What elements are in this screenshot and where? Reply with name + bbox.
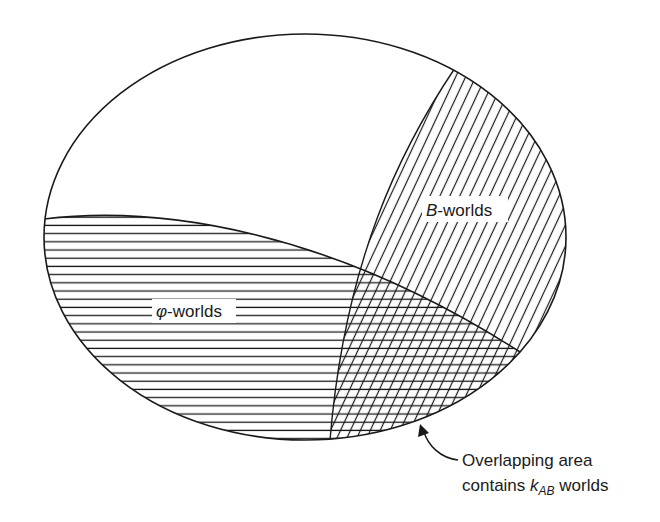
annotation-line-2: contains kAB worlds — [462, 476, 608, 498]
arrowhead-icon — [418, 424, 429, 437]
annotation-prefix: contains — [462, 476, 530, 495]
b-symbol: B — [426, 201, 437, 220]
phi-symbol: φ — [156, 302, 167, 321]
b-suffix: -worlds — [437, 201, 492, 220]
annotation-arrow — [424, 432, 458, 460]
annotation-suffix: worlds — [555, 476, 609, 495]
phi-suffix: -worlds — [167, 302, 222, 321]
b-worlds-label: B-worlds — [426, 201, 492, 220]
venn-diagram: B-worlds φ-worlds Overlapping area conta… — [0, 0, 660, 522]
annotation-subscript: AB — [538, 484, 555, 498]
annotation-line-1: Overlapping area — [462, 451, 593, 470]
phi-worlds-label: φ-worlds — [156, 302, 222, 321]
